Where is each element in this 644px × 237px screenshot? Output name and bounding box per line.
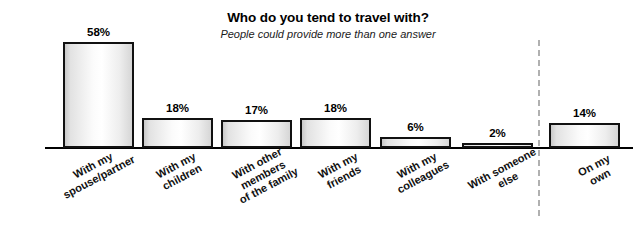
group-divider-dashed-line bbox=[538, 40, 540, 216]
bar-with-my-spouse-partner[interactable] bbox=[63, 42, 134, 148]
bar-with-someone-else[interactable] bbox=[462, 143, 533, 148]
plot-area: 58% 18% 17% 18% 6% 2% 14% With my spouse… bbox=[0, 0, 644, 237]
x-tick-label-on-my-own: On my own bbox=[556, 141, 638, 201]
bar-value-with-my-children: 18% bbox=[142, 102, 213, 114]
bar-value-with-someone-else: 2% bbox=[462, 127, 533, 139]
bar-value-on-my-own: 14% bbox=[549, 107, 620, 119]
bar-on-my-own[interactable] bbox=[549, 123, 620, 148]
chart-container: Who do you tend to travel with? People c… bbox=[0, 0, 644, 237]
bar-value-with-my-spouse-partner: 58% bbox=[63, 26, 134, 38]
bar-value-with-other-members-of-the-family: 17% bbox=[221, 104, 292, 116]
bar-value-with-my-colleagues: 6% bbox=[380, 121, 451, 133]
bar-with-my-friends[interactable] bbox=[300, 118, 371, 148]
bar-value-with-my-friends: 18% bbox=[300, 102, 371, 114]
